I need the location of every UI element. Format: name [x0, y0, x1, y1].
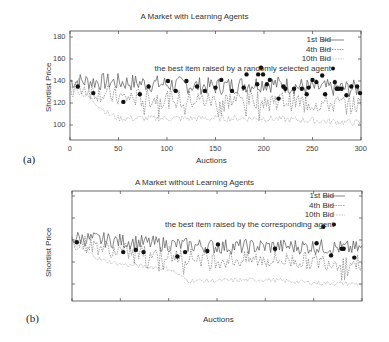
chart-panel-a: A Market with Learning Agents Shortlist … [0, 0, 389, 171]
legend-entry-4th-bid: 4th Bid [165, 201, 334, 211]
x-tick-label: 250 [306, 144, 319, 153]
x-tick-label: 100 [160, 144, 173, 153]
legend-entry-best-item: the best item raised by the correspondin… [165, 220, 334, 230]
y-axis-label: Shortlist Price [44, 63, 53, 112]
legend: 1st Bid 4th Bid 10th Bid the best item r… [165, 191, 334, 229]
x-tick-label: 300 [354, 144, 367, 153]
plot-area [0, 0, 389, 171]
legend-entry-1st-bid: 1st Bid [165, 191, 334, 201]
x-tick-label: 50 [114, 144, 122, 153]
chart-panel-b: A Market without Learning Agents Shortli… [0, 171, 389, 342]
y-tick-label: 120 [53, 98, 66, 107]
legend-entry-best-item: the best item raised by a randomly selec… [154, 64, 331, 74]
y-tick-label: 180 [53, 32, 66, 41]
x-axis-label: Auctions [196, 156, 227, 165]
y-tick-label: 160 [53, 54, 66, 63]
legend-entry-10th-bid: 10th Bid [154, 54, 331, 64]
legend-entry-10th-bid: 10th Bid [165, 210, 334, 220]
y-axis-label: Shortlist Price [44, 228, 53, 277]
x-tick-label: 0 [68, 144, 72, 153]
y-tick-label: 140 [53, 76, 66, 85]
panel-label: (b) [26, 312, 39, 324]
legend-entry-4th-bid: 4th Bid [154, 45, 331, 55]
x-axis-label: Auctions [203, 315, 234, 324]
legend-entry-1st-bid: 1st Bid [154, 35, 331, 45]
x-tick-label: 150 [209, 144, 222, 153]
panel-label: (a) [23, 153, 35, 165]
x-tick-label: 200 [257, 144, 270, 153]
legend: 1st Bid 4th Bid 10th Bid the best item r… [154, 35, 331, 73]
y-tick-label: 100 [53, 120, 66, 129]
